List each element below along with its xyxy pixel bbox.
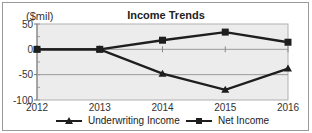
triangle-marker-icon (56, 116, 82, 126)
legend-item-net-income: Net Income (186, 115, 269, 126)
legend-item-underwriting: Underwriting Income (56, 115, 180, 126)
x-tick-label: 2012 (26, 102, 49, 113)
x-tick-label: 2015 (214, 102, 237, 113)
y-tick-label: 50 (22, 19, 34, 30)
x-tick-label: 2016 (277, 102, 300, 113)
x-tick-label: 2013 (89, 102, 112, 113)
legend-label: Underwriting Income (88, 115, 180, 126)
legend-label: Net Income (218, 115, 269, 126)
x-tick-label: 2014 (151, 102, 174, 113)
square-marker-icon (34, 46, 41, 53)
y-tick-label: 0 (27, 44, 33, 55)
square-marker-icon (285, 39, 292, 46)
square-marker-icon (159, 37, 166, 44)
square-marker-icon (96, 46, 103, 53)
square-marker-icon (222, 29, 229, 36)
square-marker-icon (186, 116, 212, 126)
y-tick-label: -50 (19, 69, 34, 80)
line-chart-plot: 500-50-10020122013201420152016 (0, 0, 312, 133)
